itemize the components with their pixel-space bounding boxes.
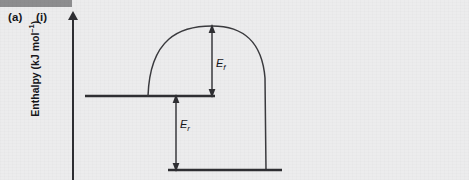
reverse-activation-label: Er — [180, 118, 190, 133]
figure-canvas: (a) (i) Enthalpy (kJ mol–1) Ef Er — [0, 0, 469, 180]
forward-activation-label: Ef — [216, 57, 226, 72]
activation-barrier-curve — [148, 26, 266, 170]
reverse-activation-subscript: r — [187, 124, 190, 133]
reverse-activation-arrow — [173, 94, 180, 172]
forward-activation-arrow — [209, 24, 216, 98]
energy-profile-drawing — [0, 0, 469, 180]
forward-activation-subscript: f — [223, 63, 225, 72]
